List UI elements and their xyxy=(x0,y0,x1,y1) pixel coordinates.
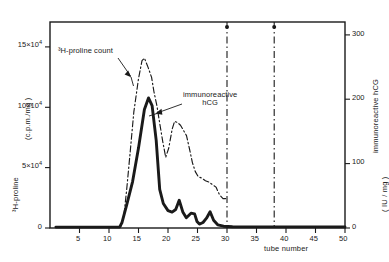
left-tick-label-0: 0 xyxy=(30,223,42,231)
bottom-tick-label-25: 25 xyxy=(192,235,200,243)
left-tick-label-5e4: 5×104 xyxy=(14,162,42,170)
left-axis-title-line1: ³H-proline xyxy=(12,177,20,212)
series-immunoreactive-hcg xyxy=(121,58,227,227)
right-axis-ticks xyxy=(345,35,350,228)
annotation-proline-count: ³H-proline count xyxy=(58,47,113,55)
right-axis-title-line1: immunoreactive hCG xyxy=(372,79,380,153)
left-axis-ticks xyxy=(45,47,50,228)
bottom-tick-label-20: 20 xyxy=(162,235,170,243)
annotation-immunoreactive-hcg: immunoreactive hCG xyxy=(183,91,237,107)
bottom-tick-label-5: 5 xyxy=(76,235,80,243)
series-3h-proline-count xyxy=(56,98,345,227)
bottom-tick-label-50: 50 xyxy=(339,235,347,243)
right-tick-label-200: 200 xyxy=(352,94,365,102)
bottom-axis-ticks xyxy=(80,228,346,233)
left-tick-exponent-15e4: 4 xyxy=(39,39,42,45)
bottom-tick-label-30: 30 xyxy=(221,235,229,243)
left-tick-label-15e4: 15×104 xyxy=(9,41,42,49)
bottom-tick-label-45: 45 xyxy=(310,235,318,243)
bottom-tick-label-35: 35 xyxy=(251,235,259,243)
left-axis-title-line2: (c.p.m./mg ) xyxy=(24,98,32,140)
bottom-tick-label-10: 10 xyxy=(103,235,111,243)
annotation-hcg-line2: hCG xyxy=(183,99,237,107)
annotation-leader-proline xyxy=(118,58,134,86)
right-axis-title-line2: ( IU / mg ) xyxy=(381,176,389,212)
bottom-tick-label-40: 40 xyxy=(280,235,288,243)
right-tick-label-0: 0 xyxy=(352,223,356,231)
vertical-marker-tube-30 xyxy=(225,22,229,228)
left-tick-exponent-5e4: 4 xyxy=(39,160,42,166)
vertical-marker-tube-38 xyxy=(272,22,276,228)
bottom-tick-label-15: 15 xyxy=(133,235,141,243)
right-tick-label-300: 300 xyxy=(352,30,365,38)
right-tick-label-100: 100 xyxy=(352,158,365,166)
left-tick-exponent-10e4: 4 xyxy=(39,100,42,106)
bottom-axis-title: tube number xyxy=(264,245,308,253)
